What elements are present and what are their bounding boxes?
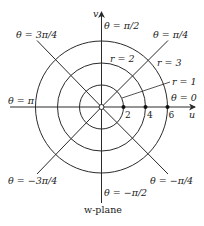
angle-label-minus-pi-over-2: θ = −π/2 <box>104 187 147 198</box>
dot-4 <box>144 105 148 109</box>
tick-label-6: 6 <box>169 110 175 120</box>
ray-3pi-over-4 <box>37 41 102 108</box>
v-axis-label: v <box>93 8 99 19</box>
circle-label-r1: r = 1 <box>172 76 197 87</box>
circle-label-r2: r = 2 <box>110 53 135 64</box>
dot-2 <box>122 105 126 109</box>
tick-label-2: 2 <box>125 110 131 120</box>
ray-minus-3pi-over-4 <box>37 107 102 174</box>
tick-label-4: 4 <box>147 110 153 120</box>
r1-leader-line <box>122 82 170 98</box>
w-plane-diagram: 2 4 6 u v r = 2 r = 3 r = 1 θ = 0 θ = π/… <box>0 0 204 226</box>
dot-6 <box>166 105 170 109</box>
circle-label-r3: r = 3 <box>157 57 182 68</box>
origin-marker <box>99 105 104 110</box>
angle-label-pi-over-4: θ = π/4 <box>153 29 188 40</box>
angle-label-3pi-over-4: θ = 3π/4 <box>16 29 57 40</box>
plane-title: w-plane <box>84 204 122 215</box>
angle-label-minus-pi-over-4: θ = −π/4 <box>150 175 193 186</box>
angle-label-pi: θ = π <box>8 95 35 106</box>
angle-label-pi-over-2: θ = π/2 <box>104 20 139 31</box>
angle-label-0: θ = 0 <box>171 92 197 103</box>
angle-label-minus-3pi-over-4: θ = −3π/4 <box>8 175 57 186</box>
u-axis-label: u <box>189 109 195 120</box>
